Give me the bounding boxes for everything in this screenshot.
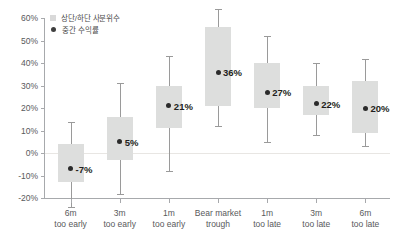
legend-item-median: 중간 수익률 xyxy=(50,24,120,35)
x-axis-category-label: 3mtoo late xyxy=(292,208,341,229)
x-axis-tick-mark xyxy=(120,199,121,203)
x-axis-label-line: 3m xyxy=(292,208,341,219)
box-plot-chart: 상단/하단 사분위수 중간 수익률 60%50%40%30%20%10%0%-1… xyxy=(0,0,393,246)
x-axis-category-label: 3mtoo early xyxy=(95,208,144,229)
x-axis-label-line: 6m xyxy=(341,208,390,219)
x-axis-category-label: Bear markettrough xyxy=(193,208,242,229)
x-axis-category-label: 1mtoo late xyxy=(243,208,292,229)
x-axis-label-line: too late xyxy=(243,219,292,230)
x-axis-label-line: 6m xyxy=(46,208,95,219)
x-axis-label-line: Bear market xyxy=(193,208,242,219)
plot-area: 60%50%40%30%20%10%0%-10%-20% -7%5%21%36%… xyxy=(0,0,393,246)
legend-circle-swatch-icon xyxy=(51,27,56,32)
x-axis-label-line: 1m xyxy=(144,208,193,219)
x-axis-label-line: too early xyxy=(95,219,144,230)
x-axis-category-label: 1mtoo early xyxy=(144,208,193,229)
legend-item-quartile-label: 상단/하단 사분위수 xyxy=(61,12,120,23)
whisker-cap-lower xyxy=(362,146,369,147)
x-axis-label-line: 3m xyxy=(95,208,144,219)
legend-item-median-label: 중간 수익률 xyxy=(62,24,98,35)
x-axis-tick-mark xyxy=(169,199,170,203)
median-value-label: 20% xyxy=(370,103,389,114)
x-axis-label-line: 1m xyxy=(243,208,292,219)
whisker-cap-upper xyxy=(362,59,369,60)
x-axis-category-label: 6mtoo early xyxy=(46,208,95,229)
median-dot xyxy=(363,106,368,111)
x-axis-category-label: 6mtoo late xyxy=(341,208,390,229)
x-axis-label-line: too late xyxy=(341,219,390,230)
x-axis-label-line: too early xyxy=(46,219,95,230)
chart-legend: 상단/하단 사분위수 중간 수익률 xyxy=(50,12,120,36)
x-axis-tick-mark xyxy=(316,199,317,203)
x-axis-tick-mark xyxy=(267,199,268,203)
legend-square-swatch-icon xyxy=(50,15,56,21)
x-axis-label-line: too early xyxy=(144,219,193,230)
x-axis-tick-mark xyxy=(365,199,366,203)
x-axis-tick-mark xyxy=(71,199,72,203)
x-axis-tick-mark xyxy=(218,199,219,203)
x-axis-label-line: trough xyxy=(193,219,242,230)
x-axis-label-line: too late xyxy=(292,219,341,230)
legend-item-quartile: 상단/하단 사분위수 xyxy=(50,12,120,23)
